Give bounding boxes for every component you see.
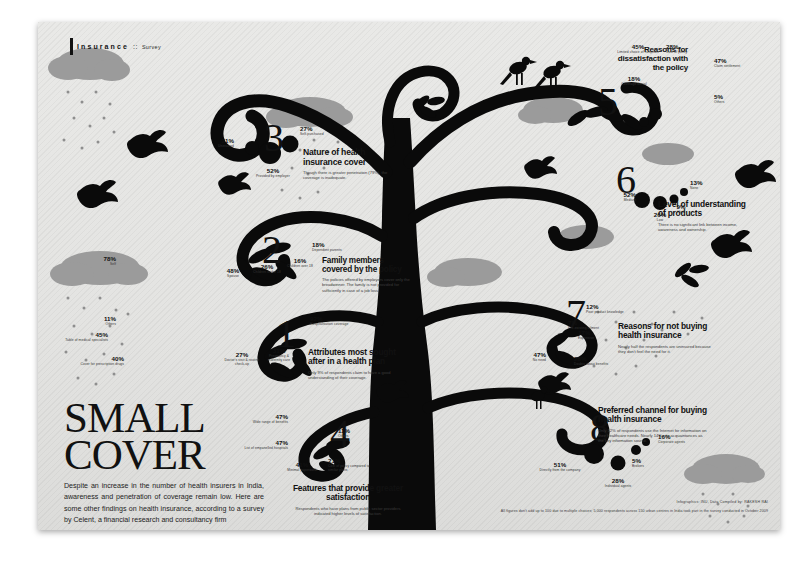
infographic-page: Insurance :: Survey SMALL COVER Despite … — [0, 0, 812, 575]
stat-3-3: 21%Uninsured — [196, 138, 234, 149]
masthead-rule — [70, 38, 73, 55]
section-7-title: Reasons for not buying health insurance — [618, 322, 714, 341]
stat-7-3: 17%Expensive — [578, 330, 612, 341]
section-3-title: Nature of health insurance cover — [303, 148, 393, 167]
stat-1-5: 27%Doctor's visit & routine check-up — [224, 352, 260, 367]
footnote: All figures don't add up to 100 due to m… — [501, 509, 768, 513]
stat-3-2: 27%Self-purchased — [300, 126, 344, 137]
stat-5-1: 47%Claim settlement — [714, 58, 750, 69]
stat-5-2: 45%Limited choice of hospitals — [616, 44, 660, 55]
stat-1-3: 40%Cover for prescription drugs — [80, 356, 124, 367]
section-3-numeral: 3 — [264, 118, 284, 158]
stat-4-3: 41%Minimal paperwork — [284, 462, 320, 473]
stat-2-5: 16%Children over 18 — [284, 258, 316, 269]
stat-1-2: 45%Table of medical specialists — [60, 332, 108, 343]
stat-7-4: 12%Poor product knowledge — [586, 304, 634, 315]
section-2-title: Family members covered by the policy — [322, 256, 414, 274]
stat-6-1: 52%Medium — [600, 192, 636, 203]
stat-5-5: 5%Others — [714, 94, 744, 105]
stat-7-2: 28%Doubts about benefits — [574, 356, 612, 367]
stat-2-2: 48%Spouse — [216, 268, 250, 279]
page-title: SMALL COVER Despite an increase in the n… — [64, 400, 264, 527]
stat-4-4: 21%Cost of policy compared to similar pl… — [328, 458, 376, 473]
masthead-section: Survey — [142, 44, 161, 50]
stat-1-4: 31%Pregnancy & maternity care — [262, 348, 296, 363]
section-1-title: Attributes most sought after in a health… — [308, 348, 408, 367]
stat-7-1: 47%No need — [510, 352, 546, 363]
masthead-separator: :: — [133, 43, 138, 50]
section-6-text: Level of understanding of products There… — [658, 200, 750, 232]
stat-5-3: 28%Cost of policy — [666, 44, 704, 55]
stat-5-4: 18%Coverage denial — [616, 76, 652, 87]
section-2-text: Family members covered by the policy The… — [322, 256, 414, 293]
stat-2-3: 26%Children under 18 — [250, 264, 284, 275]
section-8-title: Preferred channel for buying health insu… — [598, 406, 708, 425]
stat-8-1: 51%Directly from the company — [536, 462, 584, 473]
section-8-desc: Only 12% of respondents use the Internet… — [598, 428, 708, 443]
section-1-text: Attributes most sought after in a health… — [308, 348, 408, 380]
stat-2-1: 78%Self — [80, 256, 116, 267]
stat-8-4: 5%Brokers — [632, 458, 660, 469]
stat-3-1: 52%Provided by employer — [250, 168, 296, 179]
masthead: Insurance :: Survey — [70, 38, 161, 55]
section-6-desc: There is no significant link between inc… — [658, 222, 750, 232]
section-7-text: Reasons for not buying health insurance … — [618, 322, 714, 354]
poster-canvas: Insurance :: Survey SMALL COVER Despite … — [38, 22, 780, 530]
section-4-desc: Respondents who have plans from public s… — [290, 506, 406, 516]
section-7-desc: Nearly half the respondents are uninsure… — [618, 344, 714, 354]
stat-7-5: 7%Pre-existing ailment — [568, 320, 612, 331]
title-line-2: COVER — [64, 437, 264, 474]
masthead-label: Insurance — [77, 43, 129, 50]
section-6-title: Level of understanding of products — [658, 200, 750, 219]
stat-4-1: 47%Wide range of benefits — [248, 414, 288, 425]
section-3-desc: Though there is greater penetration (79%… — [303, 170, 393, 180]
stat-8-2: 28%Individual agents — [596, 478, 640, 489]
section-2-desc: The policies offered by employers cover … — [322, 277, 414, 292]
stat-4-2: 47%List of empanelled hospitals — [242, 440, 288, 451]
section-1-desc: Only 9% of respondents claim to have a g… — [308, 370, 408, 380]
stat-2-4: 18%Dependent parents — [312, 242, 360, 253]
section-3-text: Nature of health insurance cover Though … — [303, 148, 393, 180]
credit-line: Infographics: INU, Data Compiled by: RAK… — [677, 500, 769, 504]
section-5-numeral: 5 — [598, 82, 618, 122]
section-4-title: Features that provide greater satisfacti… — [290, 484, 406, 503]
stat-1-1: 92%Hospitalisation coverage — [310, 316, 358, 327]
title-deck: Despite an increase in the number of hea… — [64, 481, 264, 527]
stat-1-6: 11%Others — [80, 316, 116, 327]
stat-4-5: 11%Others — [338, 428, 372, 439]
stat-6-3: 13%None — [690, 180, 720, 191]
section-4-text: Features that provide greater satisfacti… — [290, 484, 406, 516]
section-8-text: Preferred channel for buying health insu… — [598, 406, 708, 443]
